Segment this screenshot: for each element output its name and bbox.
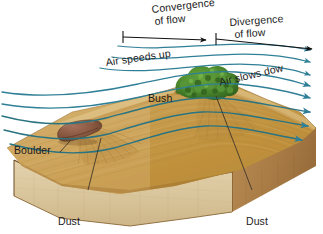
callout-dust-boulder-line1: Dust (58, 216, 123, 228)
callout-dust-lee-of-boulder: Dust deposited to lee of boulder (58, 192, 123, 234)
block-diagram-figure: Convergence of flow Divergence of flow A… (0, 0, 323, 234)
feature-label-boulder: Boulder (14, 145, 51, 157)
callout-dust-bush-line1: Dust (246, 216, 304, 228)
callout-dust-lee-of-bush: Dust deposited to lee of bush (246, 192, 304, 234)
feature-label-bush: Bush (148, 93, 172, 105)
bracket-convergence (123, 31, 206, 43)
bracket-label-divergence-line2: of flow (234, 27, 266, 41)
